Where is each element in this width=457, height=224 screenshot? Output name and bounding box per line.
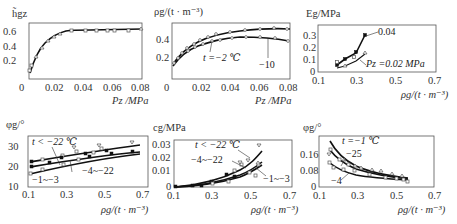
p4-ytick: 30 — [8, 141, 19, 152]
p3-annotation-002: Pz =0.02 MPa — [365, 58, 425, 69]
p3-annotation-004: 0.04 — [378, 26, 396, 37]
p5-x-label: ρg/(t · m⁻³) — [250, 204, 299, 216]
p5-xtick: 0.1 — [167, 190, 180, 201]
p3-xtick: 0.7 — [428, 75, 441, 86]
p6-xtick: 0.3 — [351, 190, 364, 201]
p5-xtick: 0.5 — [244, 190, 257, 201]
p3-x-label: ρg/(t · m⁻³) — [400, 89, 449, 101]
p1-x-label: Pz /MPa — [111, 95, 148, 106]
p2-ytick: 0.4 — [156, 34, 170, 45]
p2-xtick: 0 — [164, 82, 169, 93]
p6-leader — [341, 173, 349, 180]
p4-annotation-lt-22: t < −22 ℃ — [32, 136, 77, 147]
p5-annotation-1-3: −1~−3 — [263, 173, 290, 184]
p3-xtick: 0.3 — [350, 75, 363, 86]
p1-ytick: 0.4 — [3, 41, 17, 52]
p3-ytick: 0.3 — [303, 30, 316, 41]
p5-ytick: 0.03 — [152, 139, 170, 150]
p2-xtick: 0.08 — [279, 82, 297, 93]
p1-markers — [28, 27, 143, 72]
p5-annotation-4-22: −4~−22 — [191, 154, 223, 165]
p3-ytick: 0.1 — [303, 54, 316, 65]
p6-ytick: 0.16 — [300, 149, 318, 160]
figure-canvas: h̃gz 0.6 0.4 0.2 0 0.02 0.04 0.06 0.08 P… — [0, 0, 457, 224]
p1-ytick: 0.6 — [3, 26, 16, 37]
p6-y-label: φg/° — [303, 122, 321, 133]
p4-ytick: 10 — [8, 181, 19, 192]
p3-xtick: 0.5 — [389, 75, 402, 86]
p6-annotation-t25: −25 — [346, 148, 362, 159]
p5-ytick: 0.01 — [152, 165, 170, 176]
p1-fit-curve — [30, 29, 142, 73]
p6-annotation-t4: −4 — [331, 175, 342, 186]
plot-phi-friction: φg/° 30 20 10 0.1 0.3 0.5 0.7 ρg/(t · m⁻… — [6, 119, 149, 216]
plot-phi-porosity: φg/° 0.16 0.08 0 0.1 0.3 0.5 0.7 ρg/(t ·… — [300, 122, 446, 216]
plot-cg: cg/MPa 0.03 0.02 0.01 0 0.1 0.3 0.5 0.7 … — [152, 122, 299, 216]
p6-annotation-t1: t =−1 ℃ — [342, 135, 379, 146]
p2-y-label: ρg/(t · m⁻³) — [154, 6, 203, 18]
p1-xtick: 0.08 — [131, 82, 149, 93]
p5-y-label: cg/MPa — [153, 122, 186, 133]
p1-xtick: 0.02 — [45, 82, 63, 93]
p2-xtick: 0.06 — [250, 82, 268, 93]
p2-ytick: 0.2 — [156, 52, 169, 63]
p3-ytick: 0.2 — [303, 42, 316, 53]
p5-leader — [256, 168, 266, 176]
p6-x-label: ρg/(t · m⁻³) — [397, 204, 446, 216]
p4-annotation-4-22: −4~−22 — [82, 165, 114, 176]
p2-annotation-t10: −10 — [259, 59, 275, 70]
p6-xtick: 0.1 — [313, 190, 326, 201]
p1-ytick: 0.2 — [3, 55, 16, 66]
p3-leader — [366, 32, 378, 36]
p2-xtick: 0.04 — [221, 82, 240, 93]
p2-annotation-t2: t =−2 ℃ — [203, 52, 240, 63]
p5-curve-1-3 — [175, 165, 262, 187]
plot-hgz: h̃gz 0.6 0.4 0.2 0 0.02 0.04 0.06 0.08 P… — [3, 7, 149, 106]
p6-xtick: 0.7 — [428, 190, 441, 201]
p3-y-label: Eg/MPa — [306, 8, 341, 19]
p5-curve-4-22 — [175, 162, 262, 187]
plot-Eg: Eg/MPa 0.3 0.2 0.1 0 0.1 0.3 0.5 0.7 ρg/… — [303, 8, 449, 101]
p5-leader — [238, 150, 250, 158]
p4-y-label: φg/° — [6, 119, 24, 130]
p4-x-label: ρg/(t · m⁻³) — [100, 204, 149, 216]
p4-xtick: 0.3 — [60, 189, 73, 200]
plot-rho-vs-p: ρg/(t · m⁻³) 0.4 0.2 0 0.02 0.04 0.06 0.… — [154, 6, 297, 106]
p4-ytick: 20 — [8, 161, 19, 172]
p4-xtick: 0.1 — [22, 189, 35, 200]
p4-annotation-1-3: −1~−3 — [32, 174, 59, 185]
p6-ytick: 0.08 — [300, 165, 318, 176]
p4-xtick: 0.5 — [98, 189, 111, 200]
p2-x-label: Pz /MPa — [254, 95, 291, 106]
p5-xtick: 0.7 — [283, 190, 296, 201]
p5-xtick: 0.3 — [205, 190, 218, 201]
p2-xtick: 0.02 — [192, 82, 210, 93]
p1-xtick: 0 — [19, 82, 24, 93]
p1-xtick: 0.06 — [103, 82, 121, 93]
p1-xtick: 0.04 — [74, 82, 93, 93]
p3-xtick: 0.1 — [312, 75, 325, 86]
p5-ytick: 0.02 — [152, 152, 170, 163]
p1-y-label: h̃gz — [12, 7, 28, 19]
p6-xtick: 0.5 — [390, 190, 403, 201]
p4-xtick: 0.7 — [136, 189, 149, 200]
p5-annotation-lt-22: t < −22 ℃ — [195, 139, 240, 150]
